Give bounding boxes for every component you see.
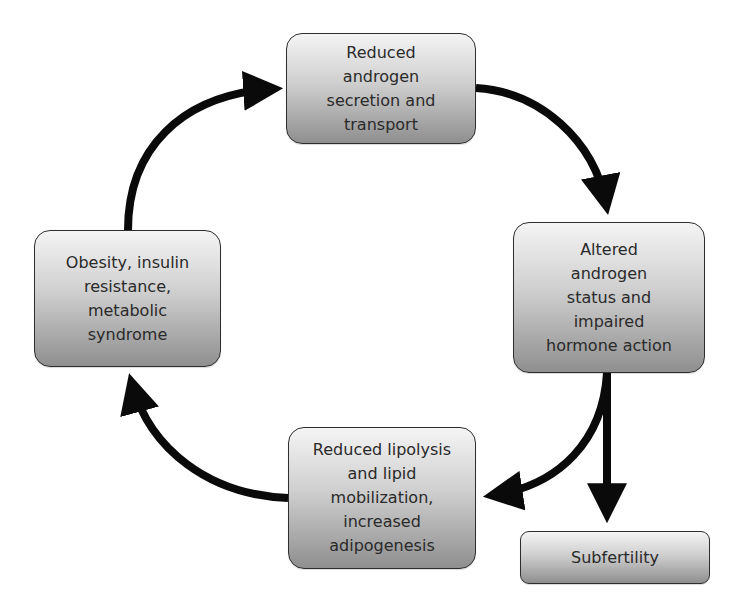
arrow-top-to-right	[476, 88, 606, 204]
node-label: Obesity, insulin resistance, metabolic s…	[66, 251, 189, 347]
arrow-left-to-top	[128, 89, 272, 230]
node-altered-androgen-status: Altered androgen status and impaired hor…	[513, 222, 705, 373]
node-reduced-androgen-secretion: Reduced androgen secretion and transport	[286, 33, 476, 144]
node-reduced-lipolysis: Reduced lipolysis and lipid mobilization…	[288, 427, 476, 569]
arrow-bottom-to-left	[132, 384, 288, 498]
node-label: Reduced androgen secretion and transport	[327, 41, 436, 137]
arrow-right-to-bottom	[494, 373, 607, 495]
node-subfertility: Subfertility	[520, 531, 710, 584]
node-label: Subfertility	[571, 546, 659, 570]
node-obesity-insulin-resistance: Obesity, insulin resistance, metabolic s…	[34, 230, 221, 367]
node-label: Reduced lipolysis and lipid mobilization…	[313, 438, 451, 558]
node-label: Altered androgen status and impaired hor…	[546, 238, 672, 358]
